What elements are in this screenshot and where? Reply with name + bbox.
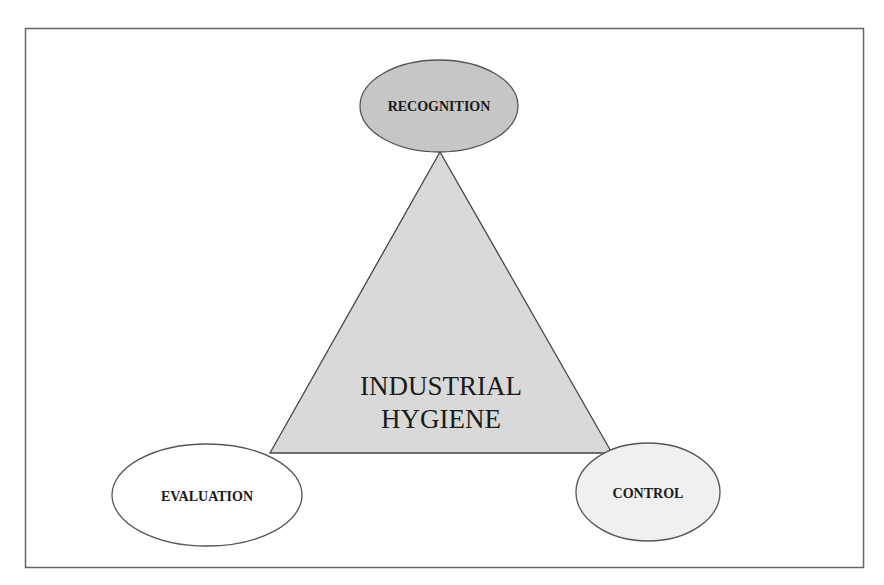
- center-label-line2: HYGIENE: [381, 404, 501, 434]
- industrial-hygiene-diagram: INDUSTRIAL HYGIENE RECOGNITION EVALUATIO…: [0, 0, 884, 585]
- center-label-line1: INDUSTRIAL: [360, 371, 522, 401]
- node-recognition: RECOGNITION: [360, 60, 518, 152]
- node-control: CONTROL: [576, 443, 720, 541]
- recognition-label: RECOGNITION: [388, 99, 491, 114]
- control-label: CONTROL: [613, 486, 684, 501]
- evaluation-label: EVALUATION: [161, 489, 253, 504]
- node-evaluation: EVALUATION: [112, 444, 302, 546]
